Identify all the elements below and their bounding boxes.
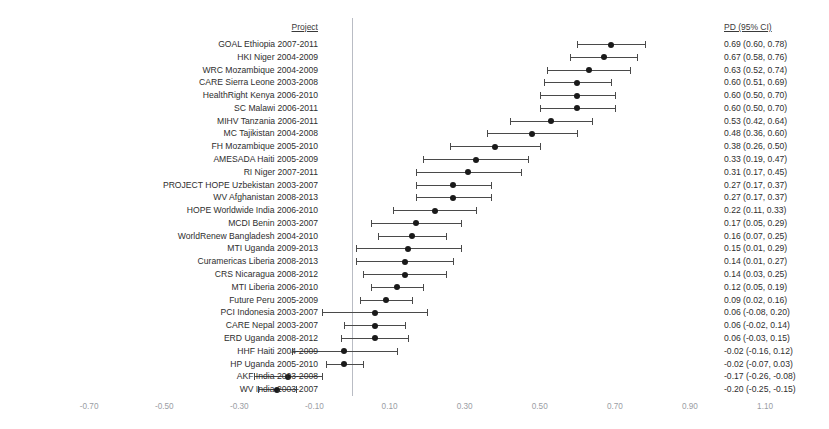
row-project-label: GOAL Ethiopia 2007-2011 [0,39,318,50]
row-project-label: MCDI Benin 2003-2007 [0,218,318,229]
row-project-label: AKF India 2003-2008 [0,371,318,382]
ci-column-header: PD (95% CI) [724,22,772,32]
row-ci-value: 0.06 (-0.03, 0.15) [724,333,790,344]
row-project-label: Future Peru 2005-2009 [0,295,318,306]
x-tick-label: 0.30 [457,402,473,411]
row-project-label: HP Uganda 2005-2010 [0,359,318,370]
row-project-label: MC Tajikistan 2004-2008 [0,128,318,139]
row-ci-value: 0.12 (0.05, 0.19) [724,282,787,293]
row-project-label: WRC Mozambique 2004-2009 [0,65,318,76]
table-row: WV India 2003-2007-0.20 (-0.25, -0.15) [0,384,829,400]
row-project-label: CARE Sierra Leone 2003-2008 [0,77,318,88]
x-axis-tick-labels: -0.70-0.50-0.30-0.100.100.300.500.700.90… [0,402,829,418]
row-ci-value: 0.14 (0.03, 0.25) [724,269,787,280]
row-ci-value: -0.17 (-0.26, -0.08) [724,371,796,382]
x-tick-label: 0.70 [607,402,623,411]
row-ci-value: -0.20 (-0.25, -0.15) [724,384,796,395]
row-ci-value: 0.14 (0.01, 0.27) [724,256,787,267]
x-tick-label: -0.70 [80,402,99,411]
row-project-label: WorldRenew Bangladesh 2004-2010 [0,231,318,242]
x-tick-label: -0.50 [155,402,174,411]
row-project-label: CRS Nicaragua 2008-2012 [0,269,318,280]
row-project-label: SC Malawi 2006-2011 [0,103,318,114]
row-project-label: HKI Niger 2004-2009 [0,52,318,63]
row-project-label: HHF Haiti 2004-2009 [0,346,318,357]
row-ci-value: 0.15 (0.01, 0.29) [724,243,787,254]
row-project-label: RI Niger 2007-2011 [0,167,318,178]
row-ci-value: 0.48 (0.36, 0.60) [724,128,787,139]
row-ci-value: 0.53 (0.42, 0.64) [724,116,787,127]
row-project-label: AMESADA Haiti 2005-2009 [0,154,318,165]
row-ci-value: 0.60 (0.50, 0.70) [724,90,787,101]
row-project-label: FH Mozambique 2005-2010 [0,141,318,152]
x-tick-label: 0.50 [532,402,548,411]
row-project-label: CARE Nepal 2003-2007 [0,320,318,331]
row-ci-value: 0.17 (0.05, 0.29) [724,218,787,229]
row-ci-value: 0.60 (0.51, 0.69) [724,77,787,88]
row-project-label: PROJECT HOPE Uzbekistan 2003-2007 [0,180,318,191]
row-ci-value: 0.27 (0.17, 0.37) [724,192,787,203]
x-tick-label: -0.30 [230,402,249,411]
project-column-header: Project [0,22,318,32]
x-tick-label: 0.90 [682,402,698,411]
row-ci-value: 0.06 (-0.02, 0.14) [724,320,790,331]
row-ci-value: 0.27 (0.17, 0.37) [724,180,787,191]
row-project-label: MIHV Tanzania 2006-2011 [0,116,318,127]
row-ci-value: 0.63 (0.52, 0.74) [724,65,787,76]
row-ci-value: 0.31 (0.17, 0.45) [724,167,787,178]
x-tick-label: 1.10 [757,402,773,411]
row-ci-value: 0.22 (0.11, 0.33) [724,205,786,216]
x-tick-label: -0.10 [305,402,324,411]
row-project-label: HealthRight Kenya 2006-2010 [0,90,318,101]
row-ci-value: 0.06 (-0.08, 0.20) [724,307,790,318]
forest-plot-figure: Project PD (95% CI) GOAL Ethiopia 2007-2… [0,0,829,429]
row-ci-value: 0.33 (0.19, 0.47) [724,154,787,165]
row-project-label: MTI Uganda 2009-2013 [0,243,318,254]
row-ci-value: 0.09 (0.02, 0.16) [724,295,787,306]
row-project-label: MTI Liberia 2006-2010 [0,282,318,293]
row-ci-value: 0.69 (0.60, 0.78) [724,39,787,50]
row-ci-value: 0.38 (0.26, 0.50) [724,141,787,152]
row-ci-value: 0.67 (0.58, 0.76) [724,52,787,63]
row-project-label: PCI Indonesia 2003-2007 [0,307,318,318]
row-ci-value: 0.60 (0.50, 0.70) [724,103,787,114]
row-project-label: WV Afghanistan 2008-2013 [0,192,318,203]
row-ci-value: 0.16 (0.07, 0.25) [724,231,787,242]
row-project-label: ERD Uganda 2008-2012 [0,333,318,344]
row-project-label: HOPE Worldwide India 2006-2010 [0,205,318,216]
row-ci-value: -0.02 (-0.07, 0.03) [724,359,793,370]
row-project-label: Curamericas Liberia 2008-2013 [0,256,318,267]
row-ci-value: -0.02 (-0.16, 0.12) [724,346,793,357]
row-project-label: WV India 2003-2007 [0,384,318,395]
x-tick-label: 0.10 [382,402,398,411]
